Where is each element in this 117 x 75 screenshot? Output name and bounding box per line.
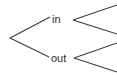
branch-in-upper — [73, 5, 117, 20]
node-label-in: in — [52, 13, 61, 25]
node-label-out: out — [51, 52, 66, 64]
tree-diagram-canvas: in out — [0, 0, 117, 75]
branch-root-to-in — [10, 17, 50, 38]
branch-root-to-out — [10, 38, 49, 57]
tree-diagram: in out — [0, 0, 117, 75]
branch-out-upper — [74, 43, 117, 58]
branch-in-lower — [73, 20, 117, 34]
branch-out-lower — [74, 58, 117, 72]
